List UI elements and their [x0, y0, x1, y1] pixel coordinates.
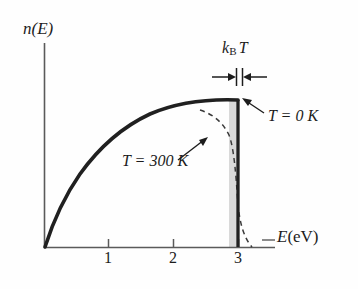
series-label-t-300k: T = 300 K [122, 153, 188, 169]
x-axis-symbol: E [277, 227, 287, 246]
kbt-arrow-left [212, 73, 236, 81]
y-axis-title: n(E) [23, 20, 53, 37]
kbt-arrow-right [243, 73, 267, 81]
series-label-t-0k: T = 0 K [268, 108, 318, 124]
x-tick-label-1: 1 [101, 250, 115, 266]
curve-t-300k-dashed [200, 110, 252, 247]
x-axis-unit: (eV) [287, 227, 318, 246]
kbt-annotation-label: kBT [222, 40, 248, 57]
kbt-shaded-band [229, 100, 237, 247]
figure-container: n(E) E(eV) 1 2 3 kBT T = 0 K T = 300 K [0, 0, 358, 289]
kbt-subscript: B [229, 45, 237, 57]
x-axis-title: E(eV) [277, 228, 319, 245]
kbt-temperature: T [239, 39, 248, 56]
curve-t-0k [45, 100, 238, 247]
x-tick-label-3: 3 [231, 250, 245, 266]
leader-arrow-t-zero [242, 98, 264, 113]
x-tick-label-2: 2 [166, 250, 180, 266]
